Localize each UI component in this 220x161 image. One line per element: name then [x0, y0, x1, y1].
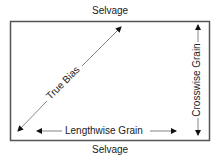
crosswise-grain-label: Crosswise Grain	[192, 43, 202, 116]
bias-arrow-lower	[18, 101, 47, 131]
fabric-rectangle	[11, 22, 210, 141]
bias-arrow-upper	[82, 27, 121, 66]
fabric-grain-diagram	[0, 0, 220, 161]
lengthwise-grain-label: Lengthwise Grain	[65, 126, 143, 136]
top-selvage-label: Selvage	[92, 6, 128, 16]
bottom-selvage-label: Selvage	[92, 145, 128, 155]
